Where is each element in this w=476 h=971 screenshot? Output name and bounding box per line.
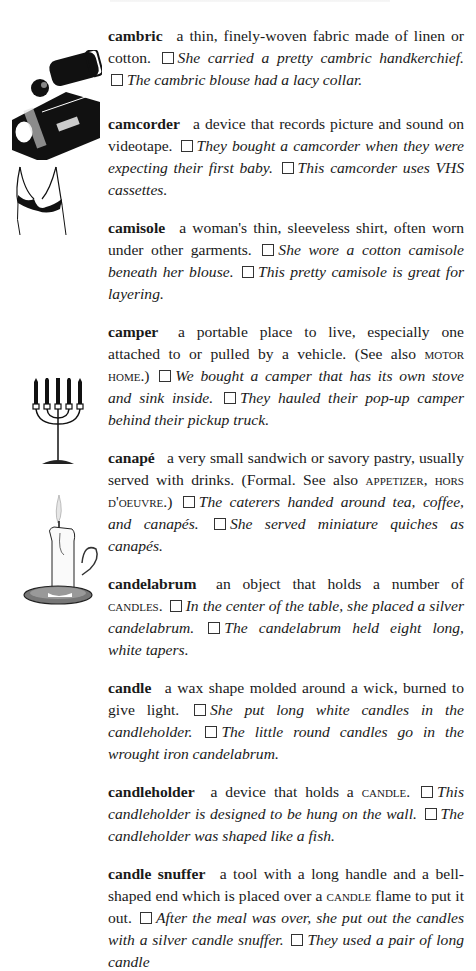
headword: canapé <box>108 449 155 466</box>
definition-end: . <box>406 783 410 800</box>
example-marker-icon <box>208 622 220 634</box>
candelabrum-illustration <box>28 378 88 466</box>
definition: a portable place to live, especially one… <box>108 323 464 362</box>
definition-end: .) <box>140 367 149 384</box>
entry-camisole: camisole a woman's thin, sleeveless shir… <box>108 217 464 305</box>
dictionary-entries: cambric a thin, finely-woven fabric made… <box>108 25 464 971</box>
example-marker-icon <box>214 518 226 530</box>
camisole-illustration <box>12 165 72 235</box>
example-marker-icon <box>181 140 193 152</box>
cross-reference: CANDLES <box>108 598 159 614</box>
example-marker-icon <box>205 726 217 738</box>
cross-reference: CANDLE <box>327 888 372 904</box>
example-marker-icon <box>224 392 236 404</box>
example-marker-icon <box>242 266 254 278</box>
example-marker-icon <box>421 786 433 798</box>
example: She carried a pretty cambric handkerchie… <box>178 49 464 66</box>
example-marker-icon <box>282 162 294 174</box>
example-marker-icon <box>262 244 274 256</box>
example: The cambric blouse had a lacy collar. <box>127 71 362 88</box>
entry-candle-snuffer: candle snuffer a tool with a long handle… <box>108 863 464 971</box>
headword: cambric <box>108 27 163 44</box>
headword: candleholder <box>108 783 195 800</box>
example-marker-icon <box>194 704 206 716</box>
example-marker-icon <box>159 370 171 382</box>
headword: camcorder <box>108 115 180 132</box>
definition: an object that holds a number of <box>216 575 464 592</box>
entry-candleholder: candleholder a device that holds a CANDL… <box>108 781 464 847</box>
entry-camcorder: camcorder a device that records picture … <box>108 113 464 201</box>
definition-end: .) <box>163 493 172 510</box>
example-marker-icon <box>140 912 152 924</box>
entry-camper: camper a portable place to live, especia… <box>108 321 464 431</box>
example-marker-icon <box>170 600 182 612</box>
entry-candelabrum: candelabrum an object that holds a numbe… <box>108 573 464 661</box>
example-marker-icon <box>162 52 174 64</box>
example-marker-icon <box>111 74 123 86</box>
definition: a device that holds a <box>211 783 354 800</box>
definition-end: . <box>159 597 163 614</box>
headword: camper <box>108 323 158 340</box>
headword: candle <box>108 679 151 696</box>
headword: candelabrum <box>108 575 196 592</box>
example-marker-icon <box>425 808 437 820</box>
entry-candle: candle a wax shape molded around a wick,… <box>108 677 464 765</box>
example-marker-icon <box>183 496 195 508</box>
candle-illustration <box>12 493 102 608</box>
camcorder-illustration <box>2 50 102 160</box>
clipped-running-header <box>110 0 390 2</box>
entry-cambric: cambric a thin, finely-woven fabric made… <box>108 25 464 91</box>
headword: candle snuffer <box>108 865 205 882</box>
headword: camisole <box>108 219 165 236</box>
cross-reference: CANDLE <box>362 784 407 800</box>
entry-canape: canapé a very small sandwich or savory p… <box>108 447 464 557</box>
example-marker-icon <box>291 934 303 946</box>
